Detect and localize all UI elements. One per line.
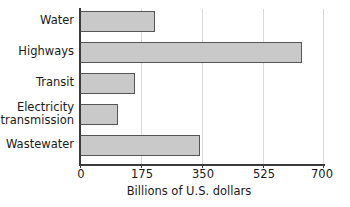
tick-label-350: 350 bbox=[192, 167, 214, 181]
bar-row bbox=[80, 104, 118, 125]
x-axis-title: Billions of U.S. dollars bbox=[0, 184, 350, 198]
tick-label-525: 525 bbox=[253, 167, 275, 181]
category-label-electricity-transmission: Electricity transmission bbox=[1, 101, 74, 126]
plot-area bbox=[80, 9, 324, 164]
bar-transit bbox=[80, 73, 135, 94]
bar-row bbox=[80, 73, 135, 94]
gridline-525 bbox=[263, 9, 264, 164]
category-label-wastewater: Wastewater bbox=[6, 138, 74, 151]
y-axis-line bbox=[79, 8, 81, 165]
category-label-highways: Highways bbox=[18, 45, 74, 58]
tick-label-175: 175 bbox=[131, 167, 153, 181]
bar-electricity-transmission bbox=[80, 104, 118, 125]
tick-label-0: 0 bbox=[77, 167, 84, 181]
bar-row bbox=[80, 11, 155, 32]
gridline-700 bbox=[323, 9, 324, 164]
bar-row bbox=[80, 42, 302, 63]
x-axis-title-text: Billions of U.S. dollars bbox=[127, 184, 252, 198]
gridline-350 bbox=[202, 9, 203, 164]
bar-chart-figure: Water Highways Transit Electricity trans… bbox=[0, 0, 350, 207]
tick-label-700: 700 bbox=[311, 167, 333, 181]
category-label-water: Water bbox=[40, 14, 74, 27]
bar-row bbox=[80, 135, 200, 156]
bar-wastewater bbox=[80, 135, 200, 156]
bar-highways bbox=[80, 42, 302, 63]
category-label-transit: Transit bbox=[36, 76, 74, 89]
bar-water bbox=[80, 11, 155, 32]
